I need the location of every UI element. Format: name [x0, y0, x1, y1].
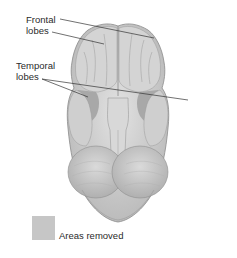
- temporal-label-line1: Temporal: [16, 60, 55, 71]
- frontal-label-line2: lobes: [26, 25, 56, 36]
- temporal-label-line2: lobes: [16, 71, 55, 82]
- frontal-lobes-label: Frontal lobes: [26, 14, 56, 36]
- frontal-label-line1: Frontal: [26, 14, 56, 25]
- legend-swatch-areas-removed: [32, 216, 55, 240]
- temporal-lobes-label: Temporal lobes: [16, 60, 55, 82]
- legend-label: Areas removed: [59, 230, 123, 241]
- cerebellum-right: [112, 146, 168, 198]
